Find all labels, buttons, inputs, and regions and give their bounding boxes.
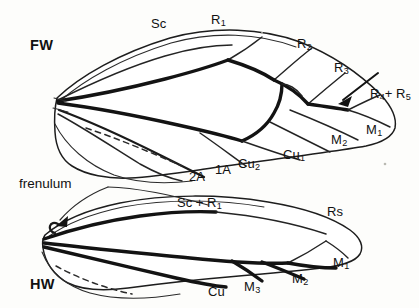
- label-hw-m2-base: M: [292, 271, 303, 286]
- label-hw-sc-r1-base: Sc + R: [177, 195, 216, 210]
- label-m2-sub: 2: [342, 138, 347, 148]
- label-hw-sc-r1: Sc + R1: [177, 196, 222, 209]
- forewing-tag: FW: [30, 38, 53, 53]
- label-r3: R3: [334, 61, 349, 74]
- label-hw-m1: M1: [333, 256, 349, 269]
- label-r4-base: R: [370, 86, 379, 101]
- print-speck: [384, 163, 387, 166]
- label-r4-r5: R4+ R5: [370, 87, 411, 100]
- wing-venation-figure: FW Sc R1 R2 R3 R4+ R5 M1 M2 Cu1 Cu2 1A 2…: [0, 0, 419, 308]
- label-r2: R2: [297, 37, 312, 50]
- hindwing-tag: HW: [30, 277, 55, 292]
- label-hw-m1-sub: 1: [344, 261, 349, 271]
- label-cu1-base: Cu: [283, 147, 300, 162]
- label-frenulum: frenulum: [19, 177, 72, 191]
- label-m1: M1: [366, 123, 382, 136]
- label-r2-base: R: [297, 36, 306, 51]
- label-hw-m1-base: M: [333, 255, 344, 270]
- label-m1-base: M: [366, 122, 377, 137]
- label-hw-m3: M3: [244, 280, 260, 293]
- label-r1-sub: 1: [221, 18, 226, 28]
- label-r3-base: R: [334, 60, 343, 75]
- label-r2-sub: 2: [307, 42, 312, 52]
- label-2a: 2A: [189, 170, 205, 183]
- label-cu1: Cu1: [283, 148, 305, 161]
- label-hw-m2: M2: [292, 272, 308, 285]
- label-hw-cu: Cu: [208, 285, 225, 298]
- label-cu1-sub: 1: [300, 153, 305, 163]
- label-hw-m3-base: M: [244, 279, 255, 294]
- label-m2-base: M: [331, 132, 342, 147]
- venation-drawing: [0, 0, 419, 308]
- label-cu2-sub: 2: [255, 162, 260, 172]
- label-r1-base: R: [211, 12, 220, 27]
- label-hw-sc-r1-sub: 1: [217, 201, 222, 211]
- label-sc: Sc: [151, 17, 166, 30]
- label-hw-m3-sub: 3: [255, 285, 260, 295]
- label-m1-sub: 1: [377, 128, 382, 138]
- label-cu2-base: Cu: [238, 156, 255, 171]
- label-cu2: Cu2: [238, 157, 260, 170]
- label-r1: R1: [211, 13, 226, 26]
- label-hw-m2-sub: 2: [303, 277, 308, 287]
- label-r5-sub: 5: [406, 92, 411, 102]
- label-m2: M2: [331, 133, 347, 146]
- label-r3-sub: 3: [344, 66, 349, 76]
- label-r5-base: + R: [385, 86, 406, 101]
- label-r4-sub: 4: [380, 92, 385, 102]
- forewing-group: [53, 30, 395, 183]
- print-speck-2: [261, 32, 263, 34]
- label-1a: 1A: [215, 163, 231, 176]
- label-hw-rs: Rs: [327, 205, 343, 218]
